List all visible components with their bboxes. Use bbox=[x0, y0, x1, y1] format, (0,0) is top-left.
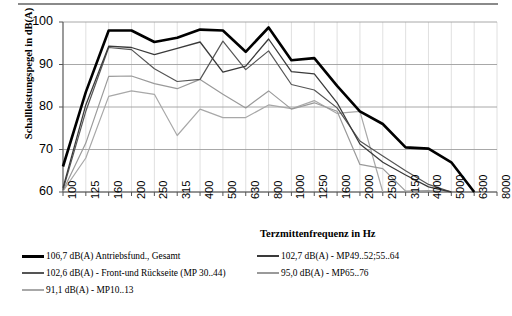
y-tick-label: 60 bbox=[23, 185, 53, 198]
chart-legend: 106,7 dB(A) Antriebsfund., Gesamt 102,7 … bbox=[0, 249, 512, 309]
x-tick-label: 1000 bbox=[295, 175, 306, 199]
x-tick-label: 630 bbox=[250, 181, 261, 199]
chart-figure: Schallleistungspegel in dB(A) 1009080706… bbox=[0, 8, 512, 248]
x-tick-label: 1600 bbox=[341, 175, 352, 199]
legend-swatch-3 bbox=[257, 272, 279, 273]
x-tick-label: 2500 bbox=[387, 175, 398, 199]
legend-swatch-0 bbox=[22, 255, 44, 258]
x-tick-label: 125 bbox=[90, 181, 101, 199]
y-tick-label: 80 bbox=[23, 100, 53, 113]
x-tick-label: 500 bbox=[227, 181, 238, 199]
x-tick-label: 160 bbox=[113, 181, 124, 199]
legend-item-4: 91,1 dB(A) - MP10..13 bbox=[22, 285, 134, 295]
x-tick-label: 100 bbox=[67, 181, 78, 199]
y-tick-label: 70 bbox=[23, 143, 53, 156]
legend-item-0: 106,7 dB(A) Antriebsfund., Gesamt bbox=[22, 251, 180, 261]
x-tick-label: 400 bbox=[204, 181, 215, 199]
y-tick-label: 90 bbox=[23, 58, 53, 71]
legend-label-3: 95,0 dB(A) - MP65..76 bbox=[281, 268, 369, 278]
plot-area bbox=[0, 8, 512, 248]
legend-item-1: 102,7 dB(A) - MP49..52;55..64 bbox=[257, 251, 399, 261]
x-tick-label: 4000 bbox=[432, 175, 443, 199]
legend-item-2: 102,6 dB(A) - Front-und Rückseite (MP 30… bbox=[22, 268, 226, 278]
legend-label-2: 102,6 dB(A) - Front-und Rückseite (MP 30… bbox=[46, 268, 226, 278]
legend-label-0: 106,7 dB(A) Antriebsfund., Gesamt bbox=[46, 251, 180, 261]
x-tick-label: 5000 bbox=[455, 175, 466, 199]
legend-label-4: 91,1 dB(A) - MP10..13 bbox=[46, 285, 134, 295]
legend-swatch-4 bbox=[22, 289, 44, 290]
x-tick-label: 3150 bbox=[410, 175, 421, 199]
axis-ticks bbox=[59, 22, 497, 196]
legend-swatch-1 bbox=[257, 255, 279, 257]
header-rule bbox=[18, 3, 498, 5]
legend-swatch-2 bbox=[22, 272, 44, 273]
chart-page: Schallleistungspegel in dB(A) 1009080706… bbox=[0, 0, 512, 316]
x-tick-label: 200 bbox=[136, 181, 147, 199]
x-tick-label: 8000 bbox=[501, 175, 512, 199]
legend-label-1: 102,7 dB(A) - MP49..52;55..64 bbox=[281, 251, 399, 261]
x-tick-label: 6300 bbox=[478, 175, 489, 199]
x-tick-label: 250 bbox=[158, 181, 169, 199]
x-tick-label: 315 bbox=[181, 181, 192, 199]
x-tick-label: 1250 bbox=[318, 175, 329, 199]
x-tick-label: 800 bbox=[273, 181, 284, 199]
y-tick-label: 100 bbox=[23, 15, 53, 28]
legend-item-3: 95,0 dB(A) - MP65..76 bbox=[257, 268, 369, 278]
x-axis-title: Terzmittenfrequenz in Hz bbox=[260, 228, 375, 239]
x-tick-label: 2000 bbox=[364, 175, 375, 199]
